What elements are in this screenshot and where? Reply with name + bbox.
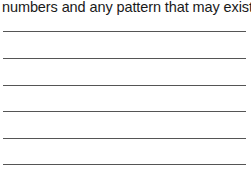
prompt-text: numbers and any pattern that may exist: [2, 0, 251, 15]
answer-line-2 [3, 58, 246, 59]
answer-line-1 [3, 31, 246, 32]
answer-line-5 [3, 138, 246, 139]
answer-line-6 [3, 164, 246, 165]
answer-line-3 [3, 85, 246, 86]
answer-line-4 [3, 111, 246, 112]
